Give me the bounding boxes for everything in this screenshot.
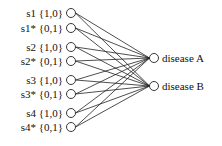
input-node-s1* [67,24,76,33]
input-label: s4* {0,1} [21,121,63,133]
input-label: s1 {1,0} [26,7,63,19]
input-node-s3 [67,76,76,85]
edge-s1*-A [76,28,150,58]
input-node-s4* [67,123,76,132]
input-label: s4 {1,0} [26,107,63,119]
input-node-s3* [67,90,76,99]
output-label: disease B [162,80,204,92]
edge-s2*-A [76,58,150,61]
edge-s2*-B [76,61,150,86]
input-label: s2 {1,0} [26,41,63,53]
input-node-s2* [67,57,76,66]
network-diagram: s1 {1,0}s1* {0,1}s2 {1,0}s2* {0,1}s3 {1,… [0,0,222,146]
input-node-s1 [67,9,76,18]
output-node-B [150,82,159,91]
output-node-A [150,54,159,63]
edge-s3-A [76,58,150,80]
output-label: disease A [162,52,204,64]
edge-s1-A [76,13,150,58]
edge-s1*-B [76,28,150,86]
edge-s1-B [76,13,150,86]
input-label: s1* {0,1} [21,22,63,34]
input-label: s3 {1,0} [26,74,63,86]
input-node-s2 [67,43,76,52]
input-node-s4 [67,109,76,118]
edge-s3*-A [76,58,150,94]
input-label: s3* {0,1} [21,88,63,100]
input-label: s2* {0,1} [21,55,63,67]
